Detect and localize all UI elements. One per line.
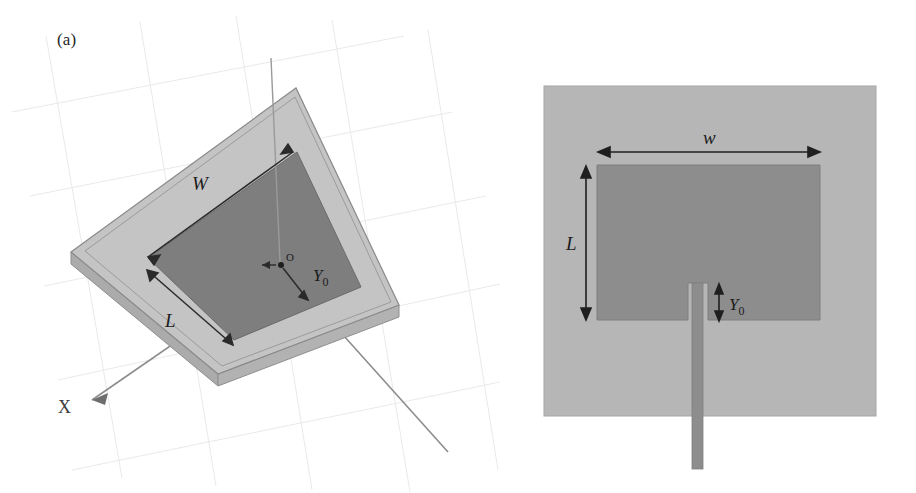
patch-with-inset-notch [597,165,820,320]
panel-b-top-view: (b) w L [500,0,916,493]
panel-a-3d-view: (a) X [0,0,500,493]
panel-a-drawing: X W L [0,0,500,493]
length-label-b: L [565,233,577,254]
panel-a-label: (a) [57,30,76,50]
length-label-a: L [164,310,176,331]
width-label-a: W [192,173,210,194]
width-label-b: w [703,127,716,148]
origin-dot [278,262,284,268]
microstrip-feed-line [692,283,703,469]
axis-x-label: X [58,397,71,417]
antenna-geometry-figure: (a) X [0,0,916,493]
panel-b-drawing: w L Y0 [500,0,916,493]
origin-label: O [286,251,294,263]
